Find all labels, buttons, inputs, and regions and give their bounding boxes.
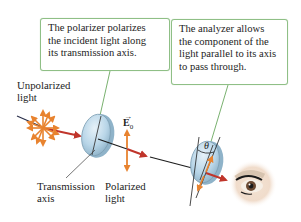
theta-symbol: θ [204,140,209,151]
unpolarized-label-line-2: light [17,91,70,103]
polarizer-disk-icon [78,111,118,160]
transmission-axis-pointer [66,150,95,178]
transmission-label-line-1: Transmission [37,180,95,192]
analyzer-callout-line-4: to pass through. [179,61,281,74]
polarized-beam [98,139,196,169]
polarizer-callout-line-3: its transmission axis. [48,47,163,60]
vector-arrow-icon: → [124,111,132,123]
polarizer-callout-line-2: the incident light along [48,35,163,48]
analyzer-callout-line-3: light parallel to its axis [179,48,281,61]
e-field-subscript: 0 [130,123,134,131]
polarized-light-label: Polarized light [105,180,146,204]
transmission-axis-label: Transmission axis [37,180,95,204]
eye-icon [229,160,277,208]
unpolarized-light-starburst-icon [28,111,58,145]
transmission-label-line-2: axis [37,192,95,204]
analyzer-callout: The analyzer allows the component of the… [171,19,288,85]
unpolarized-label-line-1: Unpolarized [17,79,70,91]
e-field-label: → E0 [123,117,133,133]
theta-label: θ [204,140,209,152]
polarizer-callout: The polarizer polarizes the incident lig… [40,18,170,71]
polarized-label-line-2: light [105,192,146,204]
unpolarized-light-label: Unpolarized light [17,79,70,103]
polarized-label-line-1: Polarized [105,180,146,192]
analyzer-callout-line-1: The analyzer allows [179,23,281,36]
analyzer-callout-line-2: the component of the [179,36,281,49]
polarizer-callout-line-1: The polarizer polarizes [48,22,163,35]
